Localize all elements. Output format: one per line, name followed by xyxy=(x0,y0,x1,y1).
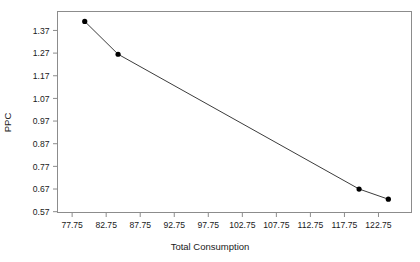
line-chart-plot: 0.570.670.770.870.971.071.171.271.37 77.… xyxy=(0,0,420,262)
plot-frame xyxy=(58,12,412,213)
x-tick-label: 112.75 xyxy=(298,220,324,230)
y-tick-label: 1.37 xyxy=(33,26,50,36)
x-axis-title: Total Consumption xyxy=(0,241,420,252)
x-tick-label: 82.75 xyxy=(95,220,117,230)
chart-container: 0.570.670.770.870.971.071.171.271.37 77.… xyxy=(0,0,420,262)
y-tick-label: 0.67 xyxy=(33,184,50,194)
y-tick-label: 1.17 xyxy=(33,71,50,81)
data-point-marker xyxy=(82,19,87,24)
y-tick-label: 0.77 xyxy=(33,162,50,172)
x-tick-label: 117.75 xyxy=(332,220,358,230)
y-axis-ticks: 0.570.670.770.870.971.071.171.271.37 xyxy=(33,26,58,217)
x-tick-label: 102.75 xyxy=(229,220,256,230)
x-tick-label: 97.75 xyxy=(198,220,220,230)
y-tick-label: 1.07 xyxy=(33,94,50,104)
x-axis-ticks: 77.7582.7587.7592.7597.75102.75107.75112… xyxy=(61,213,391,230)
x-tick-label: 107.75 xyxy=(263,220,290,230)
data-point-marker xyxy=(386,197,391,202)
data-point-marker xyxy=(115,52,120,57)
y-axis-title: PPC xyxy=(2,103,13,143)
y-tick-label: 0.97 xyxy=(33,116,50,126)
data-point-marker xyxy=(356,186,361,191)
x-tick-label: 92.75 xyxy=(163,220,185,230)
y-tick-label: 0.57 xyxy=(33,207,50,217)
x-tick-label: 122.75 xyxy=(365,220,392,230)
x-tick-label: 87.75 xyxy=(129,220,151,230)
y-tick-label: 0.87 xyxy=(33,139,50,149)
x-tick-label: 77.75 xyxy=(61,220,83,230)
y-tick-label: 1.27 xyxy=(33,48,50,58)
